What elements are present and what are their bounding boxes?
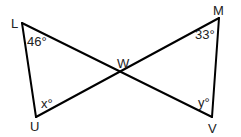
- point-label-m: M: [213, 3, 224, 18]
- point-label-w: W: [117, 56, 130, 71]
- angle-label-l: 46°: [27, 34, 47, 49]
- angle-label-u: x°: [41, 96, 53, 111]
- geometry-diagram: L M U V W 46° 33° x° y°: [0, 0, 241, 137]
- point-label-u: U: [30, 119, 39, 134]
- point-label-l: L: [11, 16, 18, 31]
- angle-label-v: y°: [198, 95, 210, 110]
- angle-label-m: 33°: [195, 27, 215, 42]
- point-label-v: V: [208, 121, 217, 136]
